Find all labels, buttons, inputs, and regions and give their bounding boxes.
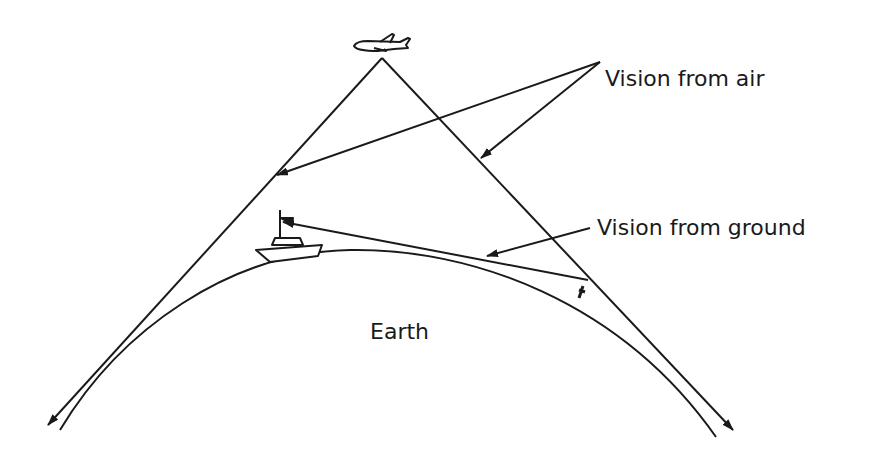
air-sight-line-left bbox=[48, 58, 382, 425]
air-label-pointer-right bbox=[481, 62, 600, 158]
ground-label-pointer bbox=[487, 228, 590, 256]
earth-label: Earth bbox=[370, 319, 429, 344]
air-sight-line-right bbox=[382, 58, 733, 430]
vision-from-ground-label: Vision from ground bbox=[597, 215, 806, 240]
angle-marker bbox=[579, 286, 585, 298]
airplane-icon bbox=[354, 34, 410, 51]
ship-icon bbox=[256, 210, 322, 262]
air-label-pointer-left bbox=[277, 62, 600, 175]
vision-from-air-label: Vision from air bbox=[605, 66, 765, 91]
horizon-diagram: Vision from air Vision from ground Earth bbox=[0, 0, 882, 462]
